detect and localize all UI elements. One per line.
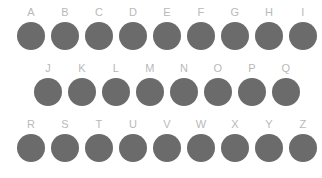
circle-icon[interactable] bbox=[51, 22, 79, 50]
circle-icon[interactable] bbox=[51, 134, 79, 162]
letter-cell-z[interactable]: Z bbox=[289, 118, 317, 162]
letter-label: H bbox=[265, 6, 273, 19]
letter-cell-f[interactable]: F bbox=[187, 6, 215, 50]
letter-cell-k[interactable]: K bbox=[68, 62, 96, 106]
circle-icon[interactable] bbox=[17, 22, 45, 50]
letter-label: G bbox=[231, 6, 240, 19]
circle-icon[interactable] bbox=[68, 78, 96, 106]
letter-label: W bbox=[196, 118, 207, 131]
circle-icon[interactable] bbox=[34, 78, 62, 106]
letter-label: J bbox=[45, 62, 51, 75]
letter-label: T bbox=[96, 118, 103, 131]
letter-label: L bbox=[113, 62, 119, 75]
letter-label: Z bbox=[300, 118, 307, 131]
letter-label: I bbox=[301, 6, 304, 19]
letter-cell-r[interactable]: R bbox=[17, 118, 45, 162]
letter-cell-a[interactable]: A bbox=[17, 6, 45, 50]
letter-label: M bbox=[145, 62, 154, 75]
letter-cell-e[interactable]: E bbox=[153, 6, 181, 50]
circle-icon[interactable] bbox=[17, 134, 45, 162]
letter-cell-s[interactable]: S bbox=[51, 118, 79, 162]
circle-icon[interactable] bbox=[289, 22, 317, 50]
circle-icon[interactable] bbox=[85, 134, 113, 162]
letter-label: V bbox=[163, 118, 171, 131]
letter-label: A bbox=[27, 6, 35, 19]
circle-icon[interactable] bbox=[119, 134, 147, 162]
letter-cell-d[interactable]: D bbox=[119, 6, 147, 50]
letter-row-1: A B C D E F G H bbox=[17, 6, 317, 50]
letter-cell-n[interactable]: N bbox=[170, 62, 198, 106]
letter-cell-j[interactable]: J bbox=[34, 62, 62, 106]
letter-cell-x[interactable]: X bbox=[221, 118, 249, 162]
letter-label: E bbox=[163, 6, 171, 19]
letter-cell-v[interactable]: V bbox=[153, 118, 181, 162]
letter-cell-t[interactable]: T bbox=[85, 118, 113, 162]
letter-cell-p[interactable]: P bbox=[238, 62, 266, 106]
letter-label: U bbox=[129, 118, 137, 131]
letter-label: S bbox=[61, 118, 69, 131]
circle-icon[interactable] bbox=[255, 22, 283, 50]
letter-label: Q bbox=[282, 62, 291, 75]
letter-label: Y bbox=[265, 118, 273, 131]
circle-icon[interactable] bbox=[221, 134, 249, 162]
letter-label: X bbox=[231, 118, 239, 131]
circle-icon[interactable] bbox=[136, 78, 164, 106]
circle-icon[interactable] bbox=[221, 22, 249, 50]
circle-icon[interactable] bbox=[204, 78, 232, 106]
letter-cell-c[interactable]: C bbox=[85, 6, 113, 50]
circle-icon[interactable] bbox=[238, 78, 266, 106]
circle-icon[interactable] bbox=[153, 134, 181, 162]
letter-label: B bbox=[61, 6, 69, 19]
circle-icon[interactable] bbox=[289, 134, 317, 162]
letter-cell-q[interactable]: Q bbox=[272, 62, 300, 106]
letter-row-3: R S T U V W X Y bbox=[17, 118, 317, 162]
circle-icon[interactable] bbox=[255, 134, 283, 162]
letter-label: R bbox=[27, 118, 35, 131]
circle-icon[interactable] bbox=[170, 78, 198, 106]
letter-circle-board: A B C D E F G H bbox=[0, 0, 322, 178]
circle-icon[interactable] bbox=[153, 22, 181, 50]
letter-label: C bbox=[95, 6, 103, 19]
letter-cell-o[interactable]: O bbox=[204, 62, 232, 106]
letter-label: P bbox=[248, 62, 256, 75]
letter-label: F bbox=[198, 6, 205, 19]
letter-cell-w[interactable]: W bbox=[187, 118, 215, 162]
letter-cell-h[interactable]: H bbox=[255, 6, 283, 50]
letter-cell-b[interactable]: B bbox=[51, 6, 79, 50]
letter-cell-y[interactable]: Y bbox=[255, 118, 283, 162]
letter-cell-g[interactable]: G bbox=[221, 6, 249, 50]
letter-label: O bbox=[214, 62, 223, 75]
letter-cell-i[interactable]: I bbox=[289, 6, 317, 50]
letter-row-2: J K L M N O P Q bbox=[34, 62, 300, 106]
letter-cell-m[interactable]: M bbox=[136, 62, 164, 106]
circle-icon[interactable] bbox=[272, 78, 300, 106]
circle-icon[interactable] bbox=[85, 22, 113, 50]
letter-label: K bbox=[78, 62, 86, 75]
circle-icon[interactable] bbox=[187, 22, 215, 50]
circle-icon[interactable] bbox=[187, 134, 215, 162]
letter-label: D bbox=[129, 6, 137, 19]
circle-icon[interactable] bbox=[119, 22, 147, 50]
letter-label: N bbox=[180, 62, 188, 75]
letter-cell-l[interactable]: L bbox=[102, 62, 130, 106]
letter-cell-u[interactable]: U bbox=[119, 118, 147, 162]
circle-icon[interactable] bbox=[102, 78, 130, 106]
